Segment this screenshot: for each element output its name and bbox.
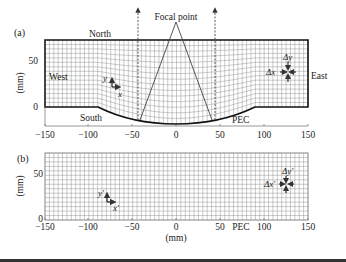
x-tick-label: −150	[35, 130, 55, 140]
west-label: West	[49, 72, 68, 82]
panel-b-tag: (b)	[17, 153, 29, 165]
east-label: East	[311, 71, 328, 81]
local-x-prime-label: x′	[112, 203, 120, 213]
focal-rays	[140, 22, 212, 120]
panel-a-y-axis-label: (mm)	[15, 72, 26, 93]
x-tick-label: 150	[301, 222, 316, 232]
pec-label-a: PEC	[232, 115, 249, 125]
delta-x-prime-label: Δx′	[263, 179, 276, 189]
panel-a-y-tick-0: 0	[33, 102, 38, 112]
cell-size-prime-arrows-icon	[279, 176, 294, 193]
south-label: South	[80, 113, 102, 123]
panel-b-y-tick-50: 50	[34, 169, 44, 179]
local-axes-prime-icon	[107, 195, 113, 202]
x-tick-label: 100	[257, 130, 272, 140]
delta-y-label: Δy	[282, 52, 292, 62]
x-tick-label: −100	[78, 222, 98, 232]
x-tick-label: 0	[174, 130, 179, 140]
figure: (a) Focal point North South West East PE…	[0, 0, 346, 262]
panel-a-x-ticks: −150−100−50050100150	[35, 124, 315, 140]
x-tick-label: 100	[257, 222, 272, 232]
local-y-label: y	[102, 73, 107, 83]
panel-b-x-axis-label: (mm)	[165, 233, 186, 244]
delta-y-prime-label: Δy′	[281, 166, 294, 176]
pec-label-b: PEC	[232, 222, 249, 232]
delta-x-label: Δx	[265, 67, 275, 77]
x-tick-label: 50	[215, 130, 225, 140]
x-tick-label: 50	[215, 222, 225, 232]
cell-size-arrows-icon	[280, 62, 296, 82]
local-x-label: x	[117, 89, 122, 99]
panel-a-tag: (a)	[14, 27, 25, 39]
panel-b: (b) y′ x′ Δy′ Δx′ −150−100−50050100150 P…	[15, 153, 315, 244]
panel-b-y-tick-0: 0	[38, 214, 43, 224]
panel-a: (a) Focal point North South West East PE…	[14, 10, 328, 140]
panel-a-mesh-grid	[45, 40, 308, 124]
x-tick-label: −100	[78, 130, 98, 140]
panel-a-y-tick-50: 50	[29, 56, 39, 66]
panel-b-y-axis-label: (mm)	[15, 175, 26, 196]
focal-point-label: Focal point	[154, 12, 197, 22]
local-y-prime-label: y′	[97, 188, 105, 198]
x-tick-label: 0	[174, 222, 179, 232]
x-tick-label: −50	[125, 130, 140, 140]
x-tick-label: −50	[125, 222, 140, 232]
north-label: North	[89, 29, 111, 39]
x-tick-label: 150	[301, 130, 316, 140]
